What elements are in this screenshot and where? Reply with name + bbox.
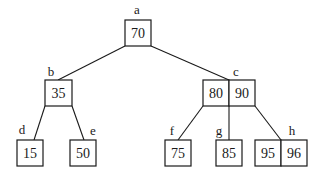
node-c: c 80 90 <box>203 64 255 106</box>
edge-a-b <box>58 46 125 80</box>
edge-a-c <box>151 46 229 80</box>
key-value: 95 <box>261 146 275 161</box>
edge-b-d <box>34 106 45 140</box>
node-label-f: f <box>170 123 175 138</box>
node-label-c: c <box>233 64 239 79</box>
edge-c-h <box>255 106 281 140</box>
node-a: a 70 <box>125 2 151 46</box>
node-b: b 35 <box>45 64 72 106</box>
key-value: 85 <box>222 146 236 161</box>
key-value: 50 <box>76 146 90 161</box>
edge-b-e <box>72 106 84 140</box>
key-value: 80 <box>209 86 223 101</box>
key-value: 70 <box>131 26 145 41</box>
node-e: e 50 <box>70 123 96 166</box>
node-label-h: h <box>289 123 296 138</box>
key-value: 35 <box>52 86 66 101</box>
key-value: 15 <box>23 146 37 161</box>
node-label-d: d <box>19 122 26 137</box>
key-value: 96 <box>287 146 301 161</box>
node-f: f 75 <box>165 123 191 166</box>
node-d: d 15 <box>17 122 43 166</box>
node-label-e: e <box>90 123 96 138</box>
node-label-a: a <box>134 2 140 17</box>
key-value: 75 <box>171 146 185 161</box>
node-label-g: g <box>216 123 223 138</box>
b-tree-diagram: a 70 b 35 c 80 90 d 15 e 50 f 75 g 85 <box>0 0 321 181</box>
node-label-b: b <box>48 64 55 79</box>
edge-c-f <box>178 106 203 140</box>
key-value: 90 <box>235 86 249 101</box>
node-h: h 95 96 <box>255 123 307 166</box>
